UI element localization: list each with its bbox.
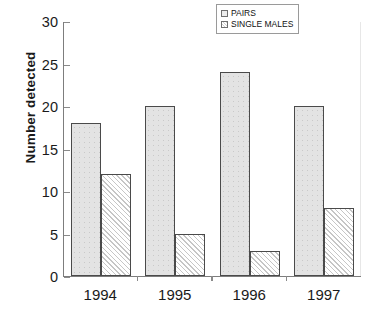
- bar-chart-figure: Number detected 051015202530 19941995199…: [0, 0, 367, 318]
- plot-area: [63, 22, 361, 277]
- bar-pairs-1997[interactable]: [294, 106, 324, 276]
- bar-group-1995: [138, 22, 212, 276]
- x-axis-tick-labels: 1994199519961997: [63, 286, 361, 303]
- x-tick-mark: [211, 276, 212, 281]
- bar-group-1996: [213, 22, 287, 276]
- legend-swatch-single-males: [221, 21, 228, 28]
- bar-pairs-1994[interactable]: [71, 123, 101, 276]
- legend-entry-single-males: SINGLE MALES: [221, 19, 293, 30]
- bar-single-males-1994[interactable]: [101, 174, 131, 276]
- bar-pairs-1996[interactable]: [220, 72, 250, 276]
- x-axis-tick-1995: 1995: [138, 286, 213, 303]
- bar-single-males-1997[interactable]: [324, 208, 354, 276]
- x-axis-tick-1996: 1996: [212, 286, 287, 303]
- chart-legend: PAIRS SINGLE MALES: [216, 4, 299, 34]
- legend-label-pairs: PAIRS: [231, 9, 256, 18]
- y-axis-tick-15: 15: [32, 142, 58, 157]
- bar-group-1994: [64, 22, 138, 276]
- x-tick-mark: [137, 276, 138, 281]
- y-tick-mark: [64, 277, 70, 278]
- x-axis-tick-1994: 1994: [63, 286, 138, 303]
- bar-groups: [64, 22, 361, 276]
- y-axis-tick-labels: 051015202530: [28, 0, 58, 318]
- y-axis-tick-5: 5: [32, 227, 58, 242]
- legend-label-single-males: SINGLE MALES: [231, 20, 293, 29]
- x-axis-tick-1997: 1997: [287, 286, 362, 303]
- bar-single-males-1996[interactable]: [250, 251, 280, 277]
- bar-group-1997: [287, 22, 361, 276]
- bar-single-males-1995[interactable]: [175, 234, 205, 277]
- legend-entry-pairs: PAIRS: [221, 8, 293, 19]
- y-axis-tick-30: 30: [32, 15, 58, 30]
- legend-swatch-pairs: [221, 10, 228, 17]
- bar-pairs-1995[interactable]: [145, 106, 175, 276]
- y-axis-tick-10: 10: [32, 185, 58, 200]
- y-axis-tick-25: 25: [32, 57, 58, 72]
- x-tick-mark: [286, 276, 287, 281]
- y-axis-tick-0: 0: [32, 270, 58, 285]
- y-axis-tick-20: 20: [32, 100, 58, 115]
